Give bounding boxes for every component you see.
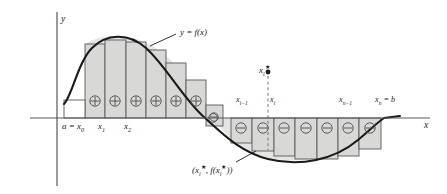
x-axis-label: x — [424, 120, 428, 130]
axis-label-xi: xi — [270, 96, 275, 106]
rect-transition — [206, 105, 223, 126]
plus-icon — [110, 96, 120, 106]
point-annotation-leader — [236, 151, 256, 162]
rect-negative-5 — [317, 118, 338, 159]
axis-label-a-x0: a = x0 — [62, 122, 84, 133]
curve-label-leader — [150, 34, 176, 46]
axis-label-xn-minus-1: xn−1 — [339, 96, 352, 106]
rect-positive-4 — [146, 50, 166, 118]
rect-blank-leading — [64, 100, 85, 118]
axis-label-x1: x1 — [98, 122, 105, 133]
y-axis-label: y — [61, 14, 65, 24]
rect-negative-4 — [295, 118, 317, 159]
axis-label-xn-equals-b: xn = b — [375, 96, 395, 106]
plus-icon — [151, 96, 161, 106]
plus-icon — [191, 96, 201, 106]
plus-icon — [171, 96, 181, 106]
point-annotation-label: (xi★, f(xi★)) — [192, 164, 232, 177]
curve-label: y = f(x) — [180, 28, 207, 37]
rect-positive-1 — [85, 44, 105, 118]
positive-rectangles — [85, 40, 206, 118]
rect-positive-5 — [166, 63, 186, 118]
rect-negative-3 — [274, 118, 295, 156]
plus-icon — [131, 96, 141, 106]
riemann-sum-figure: y x y = f(x) xi★ (xi★, f(xi★)) a = x0 x1… — [0, 0, 447, 194]
sample-point-label: xi★ — [259, 64, 270, 77]
axis-label-xi-minus-1: xi−1 — [236, 96, 248, 106]
rect-negative-1 — [231, 118, 252, 143]
plus-icon — [90, 96, 100, 106]
axis-label-x2: x2 — [124, 122, 131, 133]
